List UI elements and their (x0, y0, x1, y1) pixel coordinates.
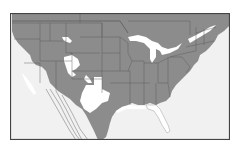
us-map (10, 13, 230, 140)
map-frame (10, 13, 230, 140)
